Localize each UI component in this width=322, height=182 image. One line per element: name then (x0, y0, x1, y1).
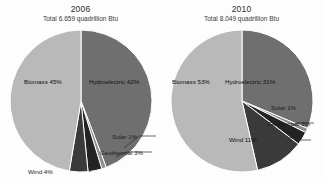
pie-label-wind-2010: Wind 11% (229, 136, 257, 143)
chart-title-2010: 2010 (161, 4, 322, 14)
chart-total-2010: Total8.049 quadrillion Btu (161, 15, 322, 22)
chart-title-2006: 2006 (0, 4, 161, 14)
pie-label-hydroelectric-2006: Hydroelectric 42% (89, 78, 139, 85)
pie-label-biomass-2010: Biomass 53% (172, 78, 210, 85)
pie-label-geothermal-2006: Geothermal 3% (100, 149, 143, 156)
pie-slice-biomass-2006[interactable] (10, 30, 81, 171)
pie-svg-2010 (167, 26, 317, 176)
total-label-2010: Total (204, 15, 218, 22)
pie-label-solar-2010: Solar 1% (271, 104, 296, 111)
total-value-2006: 6.659 quadrillion Btu (59, 15, 118, 22)
pie-label-wind-2006: Wind 4% (28, 168, 53, 175)
figure-root: 2006 Total6.659 quadrillion Btu Biomass … (0, 0, 322, 182)
total-value-2010: 8.049 quadrillion Btu (220, 15, 279, 22)
pie-label-solar-2006: Solar 1% (112, 133, 137, 140)
pie-label-biomass-2006: Biomass 45% (24, 78, 62, 85)
pie-chart-2010: 2010 Total8.049 quadrillion Btu Biomass … (161, 0, 322, 182)
pie-area-2010 (167, 26, 317, 176)
chart-total-2006: Total6.659 quadrillion Btu (0, 15, 161, 22)
pie-chart-2006: 2006 Total6.659 quadrillion Btu Biomass … (0, 0, 161, 182)
pie-label-geothermal-2010: Geothermal 3% (267, 120, 310, 127)
total-label-2006: Total (43, 15, 57, 22)
pie-label-hydroelectric-2010: Hydroelectric 31% (225, 78, 275, 85)
